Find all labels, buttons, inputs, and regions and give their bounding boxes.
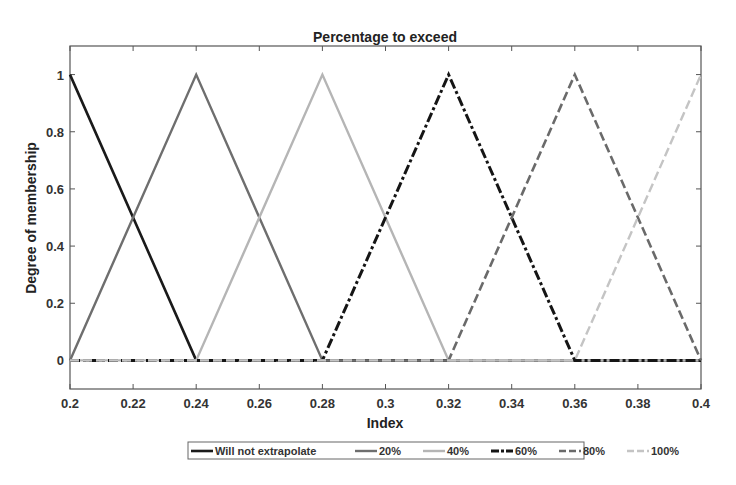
x-tick-label: 0.3	[376, 396, 394, 411]
chart-title: Percentage to exceed	[313, 29, 457, 45]
legend: Will not extrapolate20%40%60%80%100%	[188, 442, 679, 459]
x-tick-label: 0.22	[120, 396, 145, 411]
x-tick-label: 0.24	[184, 396, 210, 411]
y-axis-label: Degree of membership	[23, 142, 39, 294]
legend-label: 100%	[651, 445, 679, 457]
x-tick-label: 0.28	[310, 396, 335, 411]
y-tick-label: 0.2	[46, 296, 64, 311]
x-tick-labels: 0.20.220.240.260.280.30.320.340.360.380.…	[61, 396, 711, 411]
legend-label: Will not extrapolate	[215, 445, 316, 457]
y-tick-label: 1	[57, 68, 64, 83]
x-axis-label: Index	[367, 415, 404, 431]
y-tick-labels: 00.20.40.60.81	[46, 68, 65, 369]
x-tick-label: 0.32	[436, 396, 461, 411]
x-tick-label: 0.2	[61, 396, 79, 411]
legend-label: 40%	[447, 445, 469, 457]
y-tick-label: 0.6	[46, 182, 64, 197]
x-tick-label: 0.34	[499, 396, 525, 411]
y-tick-label: 0.8	[46, 125, 64, 140]
legend-label: 60%	[515, 445, 537, 457]
x-tick-label: 0.4	[692, 396, 711, 411]
y-tick-label: 0	[57, 353, 64, 368]
legend-label: 80%	[583, 445, 605, 457]
membership-chart: Percentage to exceed 0.20.220.240.260.28…	[0, 0, 736, 485]
y-tick-label: 0.4	[46, 239, 65, 254]
x-tick-label: 0.38	[625, 396, 650, 411]
legend-label: 20%	[379, 445, 401, 457]
x-tick-label: 0.26	[247, 396, 272, 411]
x-tick-label: 0.36	[562, 396, 587, 411]
